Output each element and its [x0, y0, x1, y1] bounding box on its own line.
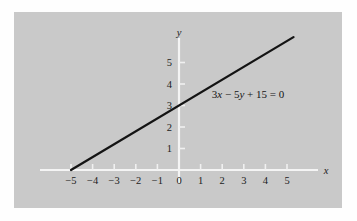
line-3x-5y-15-0 [71, 37, 293, 170]
x-tick-label: −4 [87, 175, 99, 186]
x-tick-label: 0 [176, 175, 181, 186]
x-tick-label: 5 [284, 175, 289, 186]
x-tick-label: −5 [65, 175, 76, 186]
plot-panel: −5−4−3−2−1012345 12345 x y 3x − 5y + 15 … [14, 12, 342, 208]
x-tick-label: −1 [152, 175, 163, 186]
data-line-group [71, 37, 293, 170]
x-axis-tick-labels: −5−4−3−2−1012345 [65, 175, 289, 186]
coordinate-plane-svg: −5−4−3−2−1012345 12345 x y 3x − 5y + 15 … [14, 12, 342, 208]
y-tick-label: 5 [167, 57, 172, 68]
x-axis-label: x [323, 165, 329, 176]
x-tick-label: 1 [198, 175, 203, 186]
x-tick-label: −2 [130, 175, 141, 186]
y-tick-label: 4 [167, 79, 173, 90]
y-tick-label: 1 [167, 143, 172, 154]
equation-part: + 15 = 0 [244, 88, 284, 100]
x-tick-label: −3 [109, 175, 120, 186]
y-axis-label: y [176, 27, 182, 38]
y-axis-tick-labels: 12345 [167, 57, 173, 154]
equation-annotation: 3x − 5y + 15 = 0 [212, 88, 285, 100]
figure-canvas: −5−4−3−2−1012345 12345 x y 3x − 5y + 15 … [0, 0, 357, 221]
x-tick-label: 2 [220, 175, 225, 186]
x-tick-label: 3 [241, 175, 246, 186]
equation-part: − 5 [222, 88, 240, 100]
x-tick-label: 4 [263, 175, 269, 186]
y-tick-label: 3 [167, 100, 172, 111]
y-tick-label: 2 [167, 122, 172, 133]
